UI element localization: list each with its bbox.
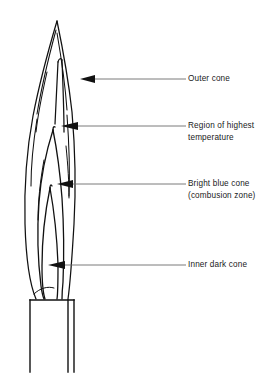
highest-temperature-zone-outline	[55, 59, 64, 132]
label-bright-blue-cone-line-2: (combusion zone)	[188, 191, 256, 200]
flame-diagram-svg: Outer cone Region of highest temperature…	[0, 0, 271, 382]
flame-diagram-figure: Outer cone Region of highest temperature…	[0, 0, 271, 382]
label-bright-blue-cone-line-1: Bright blue cone	[188, 179, 250, 188]
arrowhead-inner-dark-cone	[48, 261, 65, 269]
inner-dark-cone-outline	[42, 185, 58, 299]
label-highest-temperature-line-2: temperature	[188, 133, 234, 142]
arrowhead-bright-blue-cone	[57, 180, 73, 188]
callout-labels: Outer cone Region of highest temperature…	[188, 74, 256, 269]
label-outer-cone-line-1: Outer cone	[188, 74, 230, 83]
label-highest-temperature-line-1: Region of highest	[188, 121, 255, 130]
arrowhead-outer-cone	[80, 75, 95, 83]
burner-tube	[30, 300, 74, 372]
label-inner-dark-cone-line-1: Inner dark cone	[188, 260, 247, 269]
